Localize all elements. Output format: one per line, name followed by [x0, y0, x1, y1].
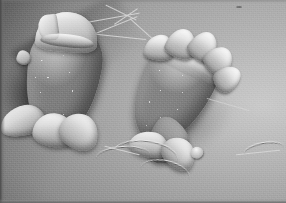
sem-micrograph: Two flagellated protozoan cells (Trichom… — [0, 0, 286, 203]
vignette-overlay — [0, 0, 286, 203]
frame-edge-left — [0, 0, 5, 203]
frame-edge-bottom — [0, 199, 286, 203]
frame-edge-top — [0, 0, 286, 3]
